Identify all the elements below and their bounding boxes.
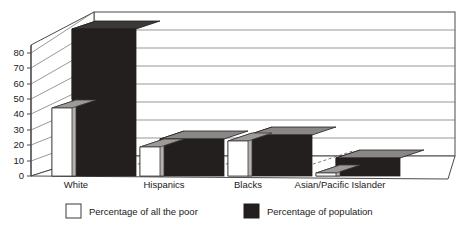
legend-label-poor: Percentage of all the poor [89, 206, 198, 217]
bar-chart-3d: 0 10 20 30 40 50 60 70 80 [0, 0, 465, 238]
legend-item-population[interactable]: Percentage of population [244, 204, 373, 218]
legend-item-poor[interactable]: Percentage of all the poor [66, 204, 198, 218]
y-tick-label-50: 50 [13, 93, 24, 104]
category-label-asian: Asian/Pacific Islander [295, 179, 386, 190]
bar-front [52, 108, 72, 176]
chart-container: 0 10 20 30 40 50 60 70 80 [0, 0, 465, 238]
y-tick-label-80: 80 [13, 47, 24, 58]
y-tick-label-70: 70 [13, 62, 24, 73]
y-tick-label-10: 10 [13, 155, 24, 166]
bar-front [248, 135, 312, 176]
legend-swatch-poor [66, 204, 81, 218]
y-tick-label-30: 30 [13, 124, 24, 135]
bar-front [160, 139, 224, 176]
y-axis: 0 10 20 30 40 50 60 70 80 [13, 45, 31, 181]
y-tick-label-40: 40 [13, 108, 24, 119]
y-tick-label-60: 60 [13, 78, 24, 89]
legend: Percentage of all the poor Percentage of… [66, 204, 373, 218]
y-tick-label-20: 20 [13, 139, 24, 150]
category-label-white: White [64, 179, 88, 190]
bar-front [316, 173, 336, 176]
x-axis-labels: White Hispanics Blacks Asian/Pacific Isl… [64, 179, 386, 190]
y-tick-label-0: 0 [19, 170, 24, 181]
legend-swatch-population [244, 204, 259, 218]
bar-front [140, 147, 160, 176]
category-label-hispanics: Hispanics [143, 179, 184, 190]
bar-front [228, 141, 248, 176]
category-label-blacks: Blacks [234, 179, 262, 190]
legend-label-population: Percentage of population [267, 206, 373, 217]
